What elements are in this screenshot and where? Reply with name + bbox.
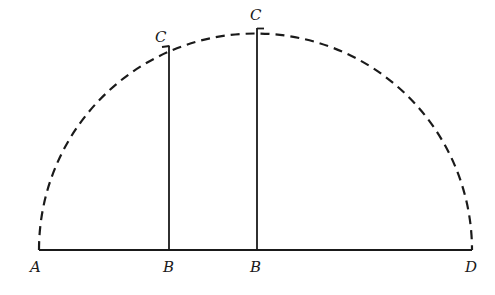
label-C-center: C bbox=[250, 6, 262, 24]
dashed-semicircle-arc bbox=[39, 33, 472, 250]
label-B-left: B bbox=[162, 258, 174, 276]
label-D: D bbox=[464, 258, 477, 276]
label-C-left: C bbox=[155, 28, 167, 46]
perpendicular-BC-left-tick bbox=[162, 46, 170, 47]
semicircle-diagram: A B B D C C bbox=[0, 0, 495, 295]
label-B-center: B bbox=[249, 258, 261, 276]
label-A: A bbox=[28, 258, 41, 276]
